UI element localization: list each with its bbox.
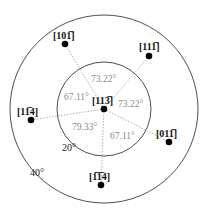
center-pole-dot <box>101 106 108 113</box>
pole-dot <box>146 53 153 60</box>
angle-label: 67.11° <box>64 92 89 102</box>
spoke-line <box>31 109 104 120</box>
pole-label: [11̅4] <box>17 106 38 117</box>
stereographic-projection-diagram: [101̅][111̅][11̅4][011̅][1̅1̅4] 73.22°67… <box>0 0 204 215</box>
pole-dot <box>28 117 35 124</box>
pole-label: [1̅1̅4] <box>89 171 110 182</box>
pole-dot <box>62 41 69 48</box>
circle-labels: 20°40° <box>30 142 76 178</box>
poles: [101̅][111̅][11̅4][011̅][1̅1̅4] <box>17 30 177 188</box>
pole-label: [011̅] <box>156 128 177 139</box>
angle-label: 67.11° <box>110 131 135 141</box>
pole-label: [111̅] <box>139 41 160 52</box>
angle-label: 79.33° <box>72 122 97 132</box>
pole-label: [101̅] <box>53 30 75 41</box>
angle-label: 73.22° <box>118 99 143 109</box>
angle-label: 73.22° <box>91 74 116 84</box>
pole-dot <box>98 182 105 189</box>
center-pole-label: [113̅] <box>92 95 113 106</box>
pole-dot <box>166 139 173 146</box>
spokes <box>31 44 169 185</box>
circle-degree-label: 20° <box>62 142 76 153</box>
circle-degree-label: 40° <box>30 167 44 178</box>
